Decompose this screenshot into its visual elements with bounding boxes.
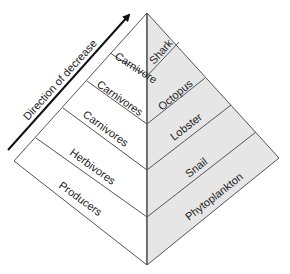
pyramid-canvas: Direction of decrease Carnivore Carnivor… xyxy=(0,0,290,274)
trophic-pyramid-diagram: Direction of decrease Carnivore Carnivor… xyxy=(0,0,290,274)
